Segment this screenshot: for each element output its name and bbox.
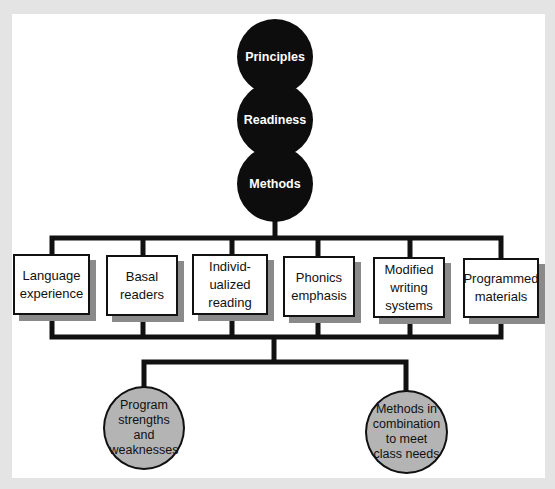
box-label: Language experience <box>20 267 84 303</box>
node-label: Methods in combination to meet class nee… <box>373 402 440 462</box>
node-methods-in-combination: Methods in combination to meet class nee… <box>365 390 448 474</box>
box-individualized-reading: Individ- ualized reading <box>192 254 268 315</box>
node-label: Principles <box>245 50 305 64</box>
box-label: Modified writing systems <box>384 261 433 315</box>
box-language-experience: Language experience <box>13 254 90 315</box>
box-label: Individ- ualized reading <box>208 258 251 312</box>
box-basal-readers: Basal readers <box>106 255 178 316</box>
box-label: Programmed materials <box>463 270 538 306</box>
node-label: Program strengths and weaknesses <box>110 398 179 458</box>
node-label: Methods <box>249 177 300 191</box>
box-label: Phonics emphasis <box>291 269 347 305</box>
box-label: Basal readers <box>120 268 164 304</box>
box-programmed-materials: Programmed materials <box>463 258 539 318</box>
box-phonics-emphasis: Phonics emphasis <box>283 256 355 317</box>
node-label: Readiness <box>244 113 307 127</box>
node-program-strengths-weaknesses: Program strengths and weaknesses <box>103 386 185 470</box>
box-modified-writing-systems: Modified writing systems <box>373 257 445 318</box>
node-methods: Methods <box>237 146 313 222</box>
